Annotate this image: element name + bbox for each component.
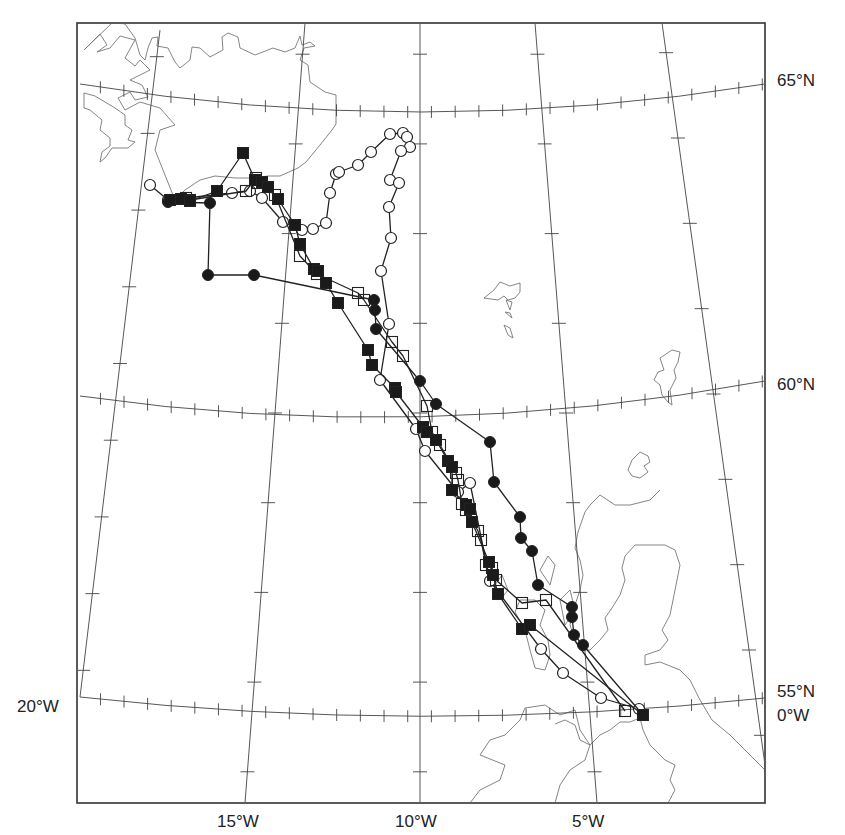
lon-label-10w: 10°W (395, 812, 437, 832)
tracks (145, 128, 649, 721)
filled-circle-marker (569, 630, 580, 641)
filled-circle-marker (533, 580, 544, 591)
coastline-faroes-a (484, 282, 520, 300)
lon-label-0w: 0°W (777, 706, 809, 726)
filled-circle-marker (205, 198, 216, 209)
parallel-line (80, 84, 765, 112)
filled-square-marker (367, 360, 378, 371)
filled-square-marker (447, 485, 458, 496)
filled-circle-marker (515, 512, 526, 523)
coastline-faroes-c (505, 312, 512, 318)
filled-square-marker (313, 266, 324, 277)
coastlines (84, 22, 765, 803)
filled-circle-marker (516, 533, 527, 544)
coastline-faroes-b (506, 300, 512, 310)
filled-square-marker (165, 195, 176, 206)
filled-square-marker (638, 710, 649, 721)
filled-circle-marker (527, 546, 538, 557)
coastline-iceland-west (84, 93, 135, 162)
filled-square-marker (363, 345, 374, 356)
filled-square-marker (465, 504, 476, 515)
filled-circle-marker (567, 602, 578, 613)
filled-circle-marker (485, 437, 496, 448)
open-circle-marker (402, 132, 413, 143)
filled-square-marker (431, 435, 442, 446)
filled-square-marker (484, 557, 495, 568)
filled-square-marker (493, 589, 504, 600)
filled-circle-marker (578, 640, 589, 651)
coastline-orkney (628, 452, 650, 478)
filled-circle-marker (489, 477, 500, 488)
open-circle-marker (596, 693, 607, 704)
open-circle-marker (536, 644, 547, 655)
coastline-scotland (570, 490, 765, 770)
open-circle-marker (308, 224, 319, 235)
filled-circle-marker (370, 305, 381, 316)
open-circle-marker (325, 188, 336, 199)
filled-circle-marker (369, 295, 380, 306)
filled-square-marker (467, 517, 478, 528)
open-circle-marker (366, 147, 377, 158)
filled-square-marker (185, 196, 196, 207)
open-circle-marker (384, 202, 395, 213)
open-circle-marker (353, 160, 364, 171)
open-circle-marker (145, 180, 156, 191)
open-circle-marker (334, 167, 345, 178)
filled-square-marker (488, 570, 499, 581)
filled-square-marker (321, 278, 332, 289)
filled-square-marker (447, 462, 458, 473)
filled-square-marker (295, 239, 306, 250)
filled-circle-marker (371, 324, 382, 335)
filled-circle-marker (431, 399, 442, 410)
lon-label-15w: 15°W (217, 812, 259, 832)
map-figure: 65°N 60°N 55°N 0°W 20°W 15°W 10°W 5°W (0, 0, 845, 835)
open-circle-marker (386, 233, 397, 244)
filled-square-marker (212, 186, 223, 197)
open-circle-marker (396, 146, 407, 157)
filled-circle-marker (249, 270, 260, 281)
filled-square-marker (238, 148, 249, 159)
coastline-hebrides (495, 556, 575, 670)
open-circle-marker (465, 478, 476, 489)
parallel-line (80, 697, 765, 716)
coastline-ireland (470, 705, 590, 803)
lat-label-65n: 65°N (777, 71, 815, 91)
open-circle-marker (321, 218, 332, 229)
filled-circle-marker (415, 376, 426, 387)
open-circle-marker (257, 193, 268, 204)
open-circle-marker (420, 446, 431, 457)
lon-label-5w: 5°W (572, 812, 604, 832)
map-canvas (0, 0, 845, 835)
coastline-ireland-north (555, 718, 640, 745)
lat-label-55n: 55°N (777, 682, 815, 702)
track-open-circle (145, 128, 645, 715)
open-circle-marker (384, 319, 395, 330)
open-circle-marker (278, 217, 289, 228)
coastline-faroes-d (504, 325, 513, 338)
filled-square-marker (525, 620, 536, 631)
filled-square-marker (333, 298, 344, 309)
open-circle-marker (558, 668, 569, 679)
coastline-england (640, 718, 675, 803)
filled-square-marker (290, 220, 301, 231)
open-circle-marker (385, 129, 396, 140)
filled-circle-marker (203, 270, 214, 281)
filled-square-marker (263, 182, 274, 193)
track-open-square (181, 173, 631, 717)
open-circle-marker (394, 178, 405, 189)
open-circle-marker (376, 266, 387, 277)
filled-square-marker (391, 387, 402, 398)
lat-label-60n: 60°N (777, 375, 815, 395)
filled-square-marker (273, 194, 284, 205)
lon-label-20w: 20°W (17, 697, 59, 717)
filled-circle-marker (567, 612, 578, 623)
